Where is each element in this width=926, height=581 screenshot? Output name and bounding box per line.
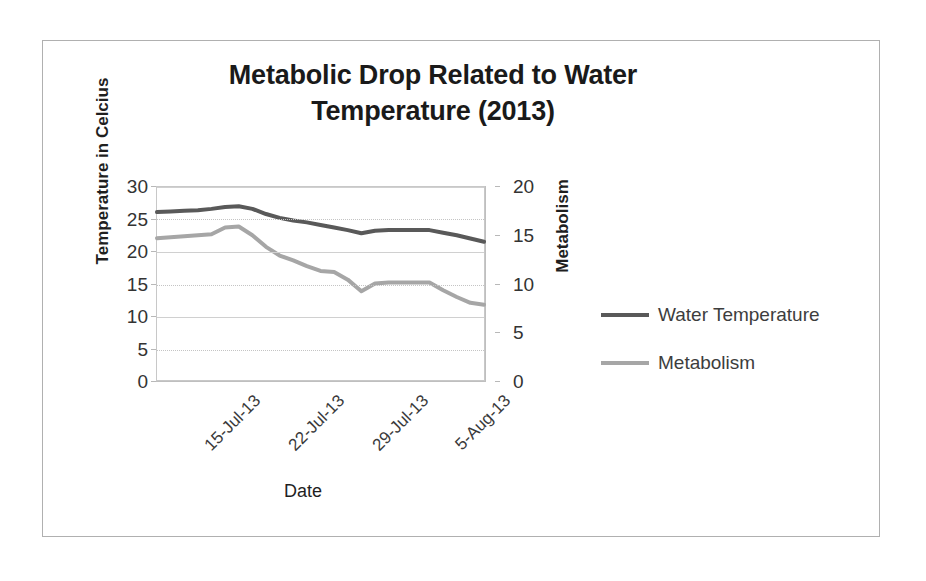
gridline	[157, 252, 484, 253]
y-axis-right-tick-mark	[495, 284, 500, 285]
y-axis-right-tick-label: 5	[513, 323, 553, 342]
y-axis-left-tick-label: 30	[108, 177, 148, 196]
x-axis-tick-label: 5-Aug-13	[452, 391, 516, 455]
y-axis-right-tick-mark	[495, 381, 500, 382]
legend-label: Water Temperature	[658, 304, 820, 326]
y-axis-right-tick-mark	[495, 235, 500, 236]
y-axis-right-tick-mark	[495, 186, 500, 187]
gridline	[157, 317, 484, 318]
y-axis-left-tick-label: 5	[108, 340, 148, 359]
y-axis-left-tick-label: 20	[108, 242, 148, 261]
legend-label: Metabolism	[658, 352, 755, 374]
gridline	[157, 285, 484, 286]
y-axis-left-ticks: 051015202530	[108, 174, 148, 393]
y-axis-right-ticks: 05101520	[495, 174, 537, 393]
series-lines	[157, 187, 484, 380]
legend-line-swatch	[601, 313, 649, 317]
y-axis-left-tick-label: 25	[108, 210, 148, 229]
y-axis-right-tick-mark	[495, 332, 500, 333]
gridline	[157, 350, 484, 351]
x-axis-title: Date	[223, 481, 383, 502]
gridline	[157, 187, 484, 188]
chart-container: Metabolic Drop Related to Water Temperat…	[42, 40, 880, 537]
y-axis-right-title: Metabolism	[553, 146, 573, 306]
legend-item[interactable]: Metabolism	[601, 352, 851, 374]
legend-item[interactable]: Water Temperature	[601, 304, 851, 326]
y-axis-left-tick-label: 0	[108, 372, 148, 391]
x-axis-tick-label: 22-Jul-13	[285, 391, 349, 455]
y-axis-left-tick-label: 15	[108, 275, 148, 294]
chart-title-line-1: Metabolic Drop Related to Water	[133, 57, 733, 93]
y-axis-right-tick-label: 15	[513, 226, 553, 245]
legend-line-swatch	[601, 361, 649, 365]
y-axis-right-spine	[485, 186, 486, 381]
series-line	[157, 227, 484, 305]
y-axis-right-tick-label: 0	[513, 372, 553, 391]
gridline	[157, 219, 484, 220]
chart-legend: Water TemperatureMetabolism	[601, 304, 851, 400]
x-axis-tick-label: 15-Jul-13	[201, 391, 265, 455]
x-axis-tick-label: 29-Jul-13	[368, 391, 432, 455]
y-axis-right-tick-label: 20	[513, 177, 553, 196]
y-axis-right-tick-label: 10	[513, 275, 553, 294]
chart-title-line-2: Temperature (2013)	[133, 93, 733, 129]
x-axis-spine	[156, 381, 486, 382]
chart-title: Metabolic Drop Related to Water Temperat…	[133, 57, 733, 129]
plot-area	[156, 186, 485, 381]
y-axis-left-tick-label: 10	[108, 307, 148, 326]
